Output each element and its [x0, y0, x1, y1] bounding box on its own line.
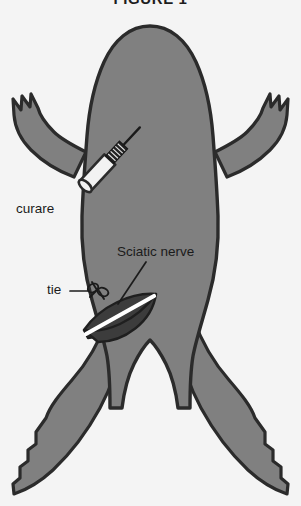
- label-curare: curare: [16, 202, 54, 216]
- frog-body-group: [13, 26, 288, 494]
- right-forelimb: [215, 94, 288, 177]
- label-sciatic-nerve: Sciatic nerve: [117, 245, 194, 259]
- left-forelimb: [13, 94, 86, 177]
- figure-container: FIGURE 1: [0, 0, 301, 506]
- label-tie: tie: [47, 283, 61, 297]
